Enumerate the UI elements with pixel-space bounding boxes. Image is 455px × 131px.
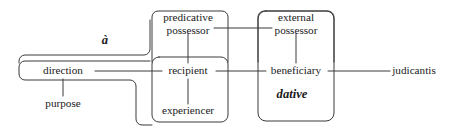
diagram-canvas (0, 0, 455, 131)
region-recipient-outline (152, 57, 228, 122)
region-predicative-possessor-outline (152, 11, 228, 62)
region-a-outline (19, 20, 150, 63)
semantic-map-diagram: direction purpose predicative possessor … (0, 0, 455, 131)
